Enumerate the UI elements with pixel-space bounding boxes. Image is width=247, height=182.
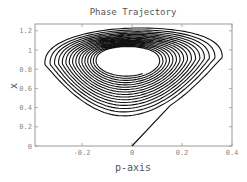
y-tick-label: 0.4 <box>19 104 32 112</box>
plot-area: 00.20.40.60.811.2 -0.200.20.4 <box>19 24 238 157</box>
y-tick-label: 1.2 <box>19 27 32 35</box>
y-tick-label: 1 <box>28 47 32 55</box>
y-tick-label: 0.2 <box>19 123 32 131</box>
x-tick-label: 0 <box>130 149 134 157</box>
x-tick-label: 0.4 <box>226 149 239 157</box>
y-axis-label: x <box>8 83 19 89</box>
y-tick-label: 0 <box>28 143 32 151</box>
phase-trajectory-chart: Phase Trajectory 00.20.40.60.811.2 -0.20… <box>0 0 247 182</box>
trajectory-line <box>45 28 223 146</box>
y-tick-label: 0.6 <box>19 85 32 93</box>
x-axis-label: p-axis <box>115 162 151 173</box>
x-tick-label: 0.2 <box>176 149 189 157</box>
chart-title: Phase Trajectory <box>90 7 177 17</box>
x-tick-label: -0.2 <box>74 149 91 157</box>
y-tick-label: 0.8 <box>19 66 32 74</box>
